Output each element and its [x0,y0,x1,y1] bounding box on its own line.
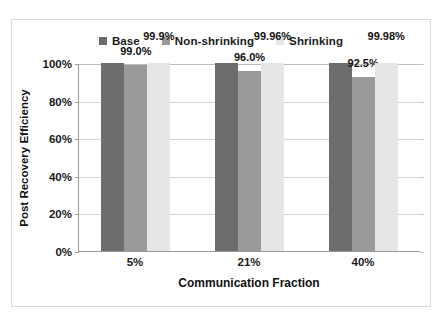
y-axis-tick-right [420,102,424,103]
bar-group: 92.5%99.98% [306,64,420,251]
bar-data-label: 99.98% [368,30,405,42]
bar-non-shrinking[interactable]: 99.0% [124,65,147,251]
bar-groups: 99.0%99.9%96.0%99.96%92.5%99.98% [79,64,420,251]
y-axis-tick-right [420,252,424,253]
x-axis-title: Communication Fraction [78,276,420,290]
bar-base[interactable] [215,63,238,251]
y-axis-tick-right [420,64,424,65]
y-axis-tick-label: 40% [49,171,72,183]
legend-label-shrinking: Shrinking [289,35,343,47]
bar-group: 99.0%99.9% [79,64,193,251]
bar-shrinking[interactable]: 99.98% [375,63,398,251]
bar-base[interactable] [329,63,352,251]
y-axis-tick-right [420,177,424,178]
bar-group: 96.0%99.96% [193,64,307,251]
y-axis-tick-label: 100% [43,58,72,70]
bar-base[interactable] [101,63,124,251]
bar-shrinking[interactable]: 99.9% [147,63,170,251]
bar-data-label: 99.9% [143,30,174,42]
bar-data-label: 99.0% [120,45,151,57]
x-axis-tick-label: 40% [306,256,420,272]
y-axis-title: Post Recovery Efficiency [18,64,34,252]
y-axis-tick-label: 20% [49,208,72,220]
x-axis-tick-labels: 5%21%40% [78,256,420,272]
y-axis-tick-label: 80% [49,96,72,108]
bar-non-shrinking[interactable]: 96.0% [238,71,261,251]
bar-shrinking[interactable]: 99.96% [261,63,284,251]
y-axis-tick-right [420,139,424,140]
legend-label-non-shrinking: Non-shrinking [175,35,254,47]
x-axis-tick-label: 5% [78,256,192,272]
legend-item-non-shrinking: Non-shrinking [162,35,254,47]
bar-data-label: 99.96% [254,30,291,42]
y-axis-tick-right [420,214,424,215]
y-axis-tick-label: 0% [55,246,72,258]
y-axis-tick [75,252,79,253]
x-axis-tick-label: 21% [192,256,306,272]
bar-data-label: 96.0% [234,51,265,63]
y-axis-tick-label: 60% [49,133,72,145]
plot-area: 0%20%40%60%80%100% 99.0%99.9%96.0%99.96%… [78,64,420,252]
bar-non-shrinking[interactable]: 92.5% [352,77,375,251]
legend-swatch-base [99,37,107,45]
